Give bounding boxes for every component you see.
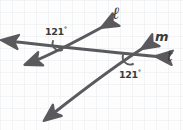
diagram-ink-layer	[0, 0, 183, 130]
line-m-stroke	[50, 45, 148, 116]
line-l-stroke	[32, 24, 108, 62]
geometry-diagram-canvas: 121° 121° ℓ m t	[0, 0, 183, 130]
